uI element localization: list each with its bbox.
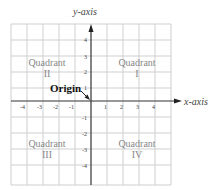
- y-tick: -2: [82, 131, 87, 137]
- x-tick: 4: [152, 104, 155, 110]
- origin-label: Origin: [50, 83, 81, 94]
- y-tick: -4: [82, 163, 87, 169]
- x-axis-label: x-axis: [184, 97, 208, 107]
- quadrant-4-numeral: IV: [112, 150, 162, 160]
- x-tick: 1: [104, 104, 107, 110]
- quadrant-2-numeral: II: [22, 69, 72, 79]
- quadrant-1-numeral: I: [112, 69, 162, 79]
- y-tick: 2: [84, 69, 87, 75]
- y-axis-label: y-axis: [73, 7, 97, 17]
- x-tick: -2: [53, 104, 58, 110]
- x-tick: -3: [37, 104, 42, 110]
- x-axis-arrow-icon: [174, 99, 182, 104]
- y-tick: 3: [84, 54, 87, 60]
- y-tick: 4: [84, 37, 87, 43]
- quadrant-1-word: Quadrant: [112, 58, 162, 68]
- quadrant-2-word: Quadrant: [22, 58, 72, 68]
- y-tick: -3: [82, 147, 87, 153]
- quadrant-4-word: Quadrant: [112, 139, 162, 149]
- quadrant-3-word: Quadrant: [22, 139, 72, 149]
- x-tick: -4: [20, 104, 25, 110]
- x-tick: 2: [120, 104, 123, 110]
- x-tick: -1: [69, 104, 74, 110]
- x-tick: 3: [136, 104, 139, 110]
- y-tick: -1: [82, 115, 87, 121]
- y-axis-arrow-icon: [89, 24, 94, 32]
- quadrant-3-numeral: III: [22, 150, 72, 160]
- coordinate-grid: [0, 0, 208, 190]
- y-tick: 1: [84, 85, 87, 91]
